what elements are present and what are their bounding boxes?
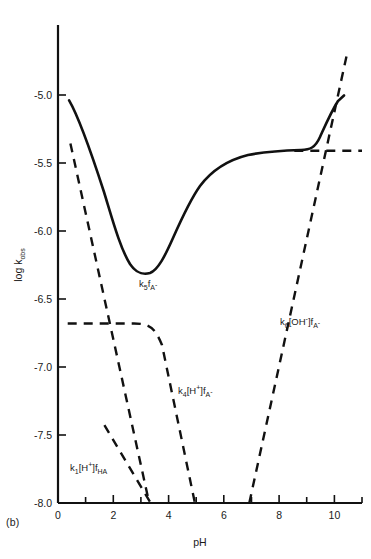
- x-tick-label: 4: [166, 509, 172, 521]
- y-tick-label: -7.0: [34, 361, 52, 373]
- observed-curve-solid: [69, 96, 344, 274]
- dashed-component-lines: [68, 54, 362, 503]
- x-axis-title: pH: [193, 536, 206, 548]
- label-k4: k4[H+]fA-: [178, 384, 213, 398]
- y-tick-label: -7.5: [34, 429, 52, 441]
- y-tick-label: -8.0: [34, 497, 52, 509]
- panel-label: (b): [6, 516, 19, 528]
- x-axis-tick-labels: 0 2 4 6 8 10: [55, 509, 340, 521]
- axis-lines: [58, 25, 362, 503]
- x-tick-label: 6: [221, 509, 227, 521]
- x-tick-label: 10: [329, 509, 341, 521]
- x-tick-label: 0: [55, 509, 61, 521]
- dashed-line-k6: [249, 54, 347, 503]
- y-axis-title-sub: obs: [19, 248, 26, 260]
- y-tick-label: -6.5: [34, 293, 52, 305]
- label-k1: k1[H+]fHA: [70, 461, 108, 475]
- label-k5: k5fA-: [139, 278, 158, 291]
- y-axis-tick-labels: -5.0 -5.5 -6.0 -6.5 -7.0 -7.5 -8.0: [34, 89, 52, 509]
- y-tick-label: -6.0: [34, 225, 52, 237]
- x-tick-label: 8: [276, 509, 282, 521]
- y-axis-title: log kobs: [12, 248, 26, 282]
- figure-panel-b: -5.0 -5.5 -6.0 -6.5 -7.0 -7.5 -8.0 0 2: [0, 0, 371, 559]
- chart-svg: -5.0 -5.5 -6.0 -6.5 -7.0 -7.5 -8.0 0 2: [0, 0, 371, 559]
- y-tick-label: -5.0: [34, 89, 52, 101]
- y-axis-title-main: log k: [12, 259, 24, 282]
- dashed-line-k4: [68, 324, 195, 504]
- label-k6: k6[OH-]fA-: [280, 315, 321, 329]
- x-axis-ticks: [58, 495, 362, 503]
- curve-annotations: k5fA- k4[H+]fA- k6[OH-]fA- k1[H+]fHA: [70, 278, 321, 475]
- y-tick-label: -5.5: [34, 157, 52, 169]
- y-axis-ticks: [58, 95, 66, 503]
- svg-text:log kobs: log kobs: [12, 248, 26, 282]
- x-tick-label: 2: [110, 509, 116, 521]
- dashed-line-k1: [104, 425, 150, 503]
